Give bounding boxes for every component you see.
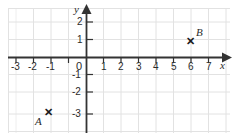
y-axis-label: y [74, 4, 79, 15]
y-tick-label: -2 [72, 87, 81, 97]
y-tick-label: 2 [77, 17, 83, 27]
x-tick-label: 3 [136, 62, 142, 72]
x-marker-icon: ✕ [44, 107, 53, 118]
x-tick-label: -3 [11, 62, 20, 72]
x-tick-label: 2 [118, 62, 124, 72]
y-tick-label: -1 [72, 70, 81, 80]
x-tick-label: 1 [101, 62, 107, 72]
x-tick-label: 6 [188, 62, 194, 72]
y-tick-label: -3 [72, 109, 81, 119]
y-tick-label: 1 [77, 35, 83, 45]
point-label-b: B [196, 27, 203, 38]
x-tick-label: -1 [46, 62, 55, 72]
x-axis-label: x [220, 60, 225, 71]
point-label-a: A [35, 116, 42, 127]
x-marker-icon: ✕ [186, 36, 195, 47]
x-tick-label: -2 [28, 62, 37, 72]
coordinate-plane-figure: -3 -2 -1 0 1 2 3 4 5 6 7 2 1 -1 -2 -3 y … [0, 0, 233, 138]
x-tick-label: 7 [206, 62, 212, 72]
x-tick-label: 5 [171, 62, 177, 72]
x-tick-label: 4 [153, 62, 159, 72]
